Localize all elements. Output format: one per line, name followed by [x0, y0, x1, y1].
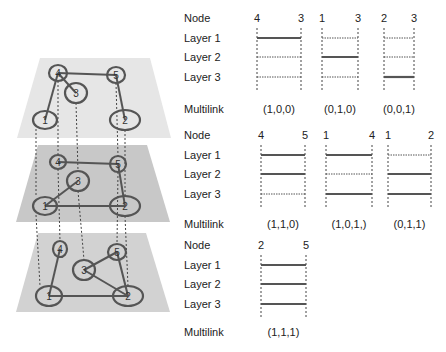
row-label-layer2: Layer 2: [184, 278, 221, 290]
node-label: 5: [114, 247, 120, 258]
multilink-vector: (0,1,0): [324, 103, 356, 115]
multilink-block-4-3: 43(1,0,0): [254, 12, 304, 115]
row-label-node: Node: [184, 129, 210, 141]
multiplex-network-diagram: 453124531245312NodeLayer 1Layer 2Layer 3…: [0, 0, 446, 352]
row-label-multilink: Multilink: [184, 218, 224, 230]
multilink-block-4-5: 45(1,1,0): [258, 129, 308, 230]
node-id: 2: [258, 239, 264, 251]
multilink-block-1-3: 13(0,1,0): [319, 12, 361, 115]
row-label-layer1: Layer 1: [184, 259, 221, 271]
node-id: 4: [369, 129, 375, 141]
multilink-vector: (1,1,0): [267, 218, 299, 230]
node-label: 3: [73, 88, 79, 99]
node-id: 5: [302, 129, 308, 141]
node-label: 1: [42, 115, 48, 126]
row-label-layer1: Layer 1: [184, 32, 221, 44]
node-id: 3: [411, 12, 417, 24]
node-label: 3: [75, 176, 81, 187]
node-label: 2: [122, 201, 128, 212]
node-id: 3: [355, 12, 361, 24]
node-label: 5: [115, 159, 121, 170]
multilink-block-1-4: 14(1,0,1,): [323, 129, 375, 230]
row-label-layer2: Layer 2: [184, 168, 221, 180]
row-label-layer1: Layer 1: [184, 149, 221, 161]
node-label: 1: [46, 291, 52, 302]
multilink-vector: (1,0,0): [263, 103, 295, 115]
node-id: 2: [381, 12, 387, 24]
row-label-multilink: Multilink: [184, 326, 224, 338]
multilink-block-2-5: 25(1,1,1): [258, 239, 309, 338]
node-label: 5: [113, 70, 119, 81]
layer-plane-2: [16, 145, 170, 222]
node-label: 4: [57, 244, 63, 255]
node-label: 2: [125, 291, 131, 302]
multilink-block-1-2: 12(0,1,1): [385, 129, 434, 230]
node-id: 4: [254, 12, 260, 24]
row-label-multilink: Multilink: [184, 103, 224, 115]
row-label-layer3: Layer 3: [184, 298, 221, 310]
multilink-block-2-3: 23(0,0,1): [381, 12, 417, 115]
row-label-layer3: Layer 3: [184, 188, 221, 200]
node-id: 3: [298, 12, 304, 24]
node-id: 1: [319, 12, 325, 24]
node-id: 1: [385, 129, 391, 141]
node-id: 1: [323, 129, 329, 141]
node-label: 4: [55, 68, 61, 79]
node-id: 4: [258, 129, 264, 141]
node-id: 5: [303, 239, 309, 251]
multilink-vector: (0,0,1): [383, 103, 415, 115]
row-label-layer2: Layer 2: [184, 51, 221, 63]
node-label: 3: [81, 265, 87, 276]
multilink-vector: (0,1,1): [394, 218, 426, 230]
layer-plane-1: [17, 58, 171, 138]
node-label: 1: [42, 201, 48, 212]
row-label-layer3: Layer 3: [184, 71, 221, 83]
row-label-node: Node: [184, 12, 210, 24]
multilink-vector: (1,0,1,): [332, 218, 367, 230]
node-id: 2: [428, 129, 434, 141]
row-label-node: Node: [184, 239, 210, 251]
node-label: 4: [55, 157, 61, 168]
node-label: 2: [122, 115, 128, 126]
multilink-vector: (1,1,1): [268, 326, 300, 338]
